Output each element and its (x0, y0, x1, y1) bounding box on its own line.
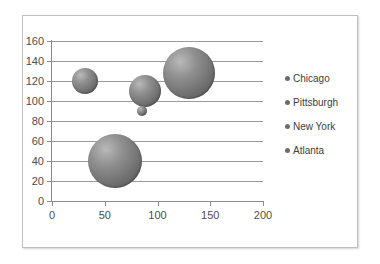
legend-label: Chicago (293, 73, 330, 84)
legend-marker-icon (285, 124, 290, 129)
legend-label: Atlanta (293, 145, 324, 156)
x-tick-label: 50 (99, 209, 111, 221)
y-tick-label: 40 (32, 155, 44, 167)
x-tick-label: 150 (201, 209, 219, 221)
plot-area: 020406080100120140160 050100150200 (52, 41, 263, 201)
y-tick-mark (47, 161, 52, 162)
y-tick-label: 100 (26, 95, 44, 107)
gridline (52, 181, 263, 182)
y-tick-label: 60 (32, 135, 44, 147)
x-tick-mark (210, 201, 211, 206)
y-tick-mark (47, 121, 52, 122)
y-tick-label: 20 (32, 175, 44, 187)
legend-item-new-york[interactable]: New York (285, 114, 353, 138)
legend-item-atlanta[interactable]: Atlanta (285, 138, 353, 162)
y-tick-mark (47, 181, 52, 182)
y-tick-label: 160 (26, 35, 44, 47)
y-tick-label: 140 (26, 55, 44, 67)
y-tick-mark (47, 81, 52, 82)
y-tick-label: 0 (38, 195, 44, 207)
legend-marker-icon (285, 76, 290, 81)
bubble-chicago[interactable] (72, 68, 98, 94)
y-tick-label: 80 (32, 115, 44, 127)
x-tick-mark (52, 201, 53, 206)
x-tick-label: 0 (49, 209, 55, 221)
bubble-point[interactable] (137, 106, 147, 116)
legend-marker-icon (285, 148, 290, 153)
bubble-pittsburgh[interactable] (129, 75, 161, 107)
x-tick-label: 200 (254, 209, 272, 221)
legend-item-chicago[interactable]: Chicago (285, 66, 353, 90)
gridline (52, 141, 263, 142)
gridline (52, 161, 263, 162)
x-tick-mark (158, 201, 159, 206)
y-tick-mark (47, 61, 52, 62)
bubble-chart-frame: 020406080100120140160 050100150200 Chica… (22, 15, 358, 248)
y-tick-mark (47, 101, 52, 102)
bubble-new-york[interactable] (163, 47, 215, 99)
x-tick-mark (263, 201, 264, 206)
y-tick-mark (47, 41, 52, 42)
bubble-atlanta[interactable] (88, 134, 142, 188)
y-tick-mark (47, 141, 52, 142)
y-tick-label: 120 (26, 75, 44, 87)
gridline (52, 61, 263, 62)
gridline (52, 101, 263, 102)
legend-label: New York (293, 121, 335, 132)
legend-label: Pittsburgh (293, 97, 338, 108)
x-tick-mark (105, 201, 106, 206)
gridline (52, 121, 263, 122)
gridline (52, 41, 263, 42)
legend-item-pittsburgh[interactable]: Pittsburgh (285, 90, 353, 114)
x-tick-label: 100 (148, 209, 166, 221)
legend-marker-icon (285, 100, 290, 105)
chart-legend: ChicagoPittsburghNew YorkAtlanta (285, 66, 353, 162)
